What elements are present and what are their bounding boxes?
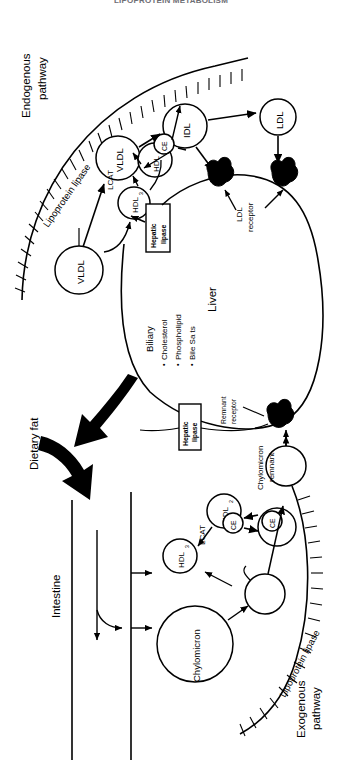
chylomicron-remnant-line2: remnant	[267, 452, 276, 482]
dietary-fat-label: Dietary fat	[28, 417, 40, 470]
biliary-output-arrow	[74, 374, 138, 447]
chylomicron-label: Chylomicron	[191, 629, 202, 682]
hdl3-top-particle: HDL 3	[118, 187, 150, 219]
hdl3-top-subscript: 3	[138, 192, 144, 195]
ldl-receptor-label: LDL receptor	[235, 202, 255, 232]
endogenous-pathway-line2: pathway	[36, 57, 48, 100]
ce-bottom-a-label: CE	[230, 520, 237, 530]
hdl3-bottom-subscript: 3	[184, 545, 190, 548]
remnant-receptor	[267, 399, 294, 427]
hdl3-top-label: HDL	[131, 196, 140, 213]
ldl-receptor-line1: LDL	[235, 207, 244, 222]
hdl3-bottom-particle: HDL 3	[163, 539, 197, 573]
remnant-receptor-label: Remnant receptor	[220, 396, 238, 424]
hepatic-lipase-link-left	[140, 428, 179, 431]
idl-label: IDL	[181, 123, 192, 138]
biliary-item-1: Phospholipid	[174, 314, 183, 360]
biliary-item-0: Cholesterol	[160, 319, 169, 360]
biliary-item-2: Bile Sa ts	[188, 326, 197, 360]
chylomicron-remnant-line1: Chylomicron	[256, 446, 265, 490]
lcat-top-label: LCAT	[106, 170, 115, 190]
biliary-group: Biliary • Cholesterol • Phospholipid • B…	[144, 314, 197, 366]
remnant-receptor-line1: Remnant	[220, 396, 227, 424]
chylomicron-remnant-particle: Chylomicron remnant	[256, 446, 306, 490]
exogenous-pathway-label: Exogenous pathway	[295, 680, 322, 738]
biliary-bullet-2: •	[188, 363, 195, 366]
biliary-title: Biliary	[144, 326, 155, 352]
ldl-receptor-right	[271, 157, 298, 186]
lipoprotein-metabolism-diagram: Endogenous pathway Lipoprotein lipase VL…	[0, 0, 342, 778]
ce-top-a-label: CE	[161, 141, 168, 151]
endogenous-pathway-line1: Endogenous	[20, 53, 32, 118]
vldl-remodeled-label: VLDL	[114, 148, 125, 172]
exogenous-pathway-line1: Exogenous	[295, 680, 307, 738]
ldl-particle: LDL	[260, 99, 296, 135]
ce-bottom-a-particle: CE	[223, 513, 243, 533]
intestine-outline	[72, 492, 131, 760]
intestine-label: Intestine	[50, 575, 62, 618]
liver-label: Liver	[206, 287, 218, 312]
ce-bottom-b-label: CE	[269, 518, 276, 528]
biliary-bullet-0: •	[160, 363, 167, 366]
hdl3-bottom-label: HDL	[177, 551, 186, 568]
chylomicron-particle: Chylomicron	[157, 606, 233, 682]
hepatic-lipase-top-line1: Hepatic	[150, 223, 158, 248]
hdl2-bottom-subscript: 2	[228, 500, 234, 503]
remnant-receptor-pointer	[243, 407, 264, 416]
ldl-receptor-left	[207, 157, 234, 186]
ldl-label: LDL	[274, 112, 285, 129]
vldl-source-particle: VLDL	[55, 246, 103, 294]
ce-top-a-particle: CE	[154, 134, 174, 154]
biliary-bullet-1: •	[174, 363, 181, 366]
hepatic-lipase-bottom-line1: Hepatic	[182, 421, 190, 446]
hepatic-lipase-bottom-line2: lipase	[191, 423, 199, 442]
hepatic-lipase-bottom-box: Hepatic lipase	[179, 404, 201, 450]
exogenous-pathway-line2: pathway	[310, 687, 322, 730]
vldl-remodeled-particle: VLDL	[96, 136, 140, 180]
intestine-arrows	[97, 530, 152, 640]
chylomicron-remodel-particle	[244, 566, 285, 614]
ce-bottom-b-particle: CE	[258, 508, 296, 546]
ldl-receptor-line2: receptor	[246, 202, 255, 232]
hepatic-lipase-top-line2: lipase	[160, 225, 168, 244]
endogenous-pathway-label: Endogenous pathway	[20, 53, 48, 118]
dietary-fat-arrow	[38, 436, 93, 500]
remnant-receptor-line2: receptor	[230, 398, 238, 424]
vldl-source-label: VLDL	[75, 260, 86, 284]
hepatic-lipase-top-box: Hepatic lipase	[146, 204, 170, 252]
lipoprotein-lipase-top-label: Lipoprotein lipase	[41, 162, 93, 229]
